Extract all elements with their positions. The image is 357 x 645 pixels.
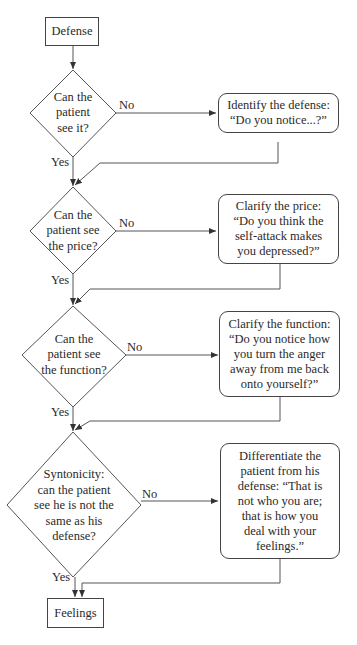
- decision-2-text: Can the patient see the price?: [30, 206, 116, 256]
- action-4-line: not who you are;: [238, 494, 323, 509]
- action-2-line: Clarify the price:: [234, 199, 324, 214]
- decision-4-line: see he is not the: [34, 498, 114, 514]
- action-4-line: Differentiate the: [238, 449, 323, 464]
- decision-2-no-label: No: [119, 216, 134, 230]
- action-box-clarify-function: Clarify the function: “Do you notice how…: [219, 311, 340, 397]
- decision-3-no-label: No: [127, 340, 142, 354]
- end-box-feelings: Feelings: [47, 598, 104, 628]
- action-3-line: you turn the anger: [228, 347, 330, 362]
- action-2-line: “Do you think the: [234, 214, 324, 229]
- action-3-line: onto yourself?”: [228, 377, 330, 392]
- action-3-line: Clarify the function:: [228, 317, 330, 332]
- decision-3-text: Can the patient see the function?: [22, 330, 126, 380]
- decision-4-line: defense?: [34, 529, 114, 545]
- action-1-line: Identify the defense:: [227, 98, 330, 113]
- decision-4-line: can the patient: [34, 483, 114, 499]
- start-box-defense: Defense: [45, 17, 99, 46]
- connector-action-1-return: [75, 142, 278, 185]
- action-2-line: you depressed?”: [234, 244, 324, 259]
- action-4-line: deal with your: [238, 524, 323, 539]
- decision-1-no-label: No: [119, 98, 134, 112]
- action-4-line: defense: “That is: [238, 479, 323, 494]
- decision-3-line: Can the: [41, 332, 107, 348]
- decision-4-yes-label: Yes: [52, 570, 70, 584]
- end-label: Feelings: [54, 606, 96, 621]
- decision-3-line: the function?: [41, 363, 107, 379]
- action-3-line: away from me back: [228, 362, 330, 377]
- action-1-line: “Do you notice...?”: [227, 113, 330, 128]
- action-4-line: that is how you: [238, 509, 323, 524]
- decision-4-line: Syntonicity:: [34, 467, 114, 483]
- decision-1-yes-label: Yes: [51, 155, 69, 169]
- decision-1-line: Can the: [54, 90, 93, 106]
- start-label: Defense: [52, 24, 93, 39]
- decision-2-yes-label: Yes: [51, 273, 69, 287]
- action-3-line: “Do you notice how: [228, 332, 330, 347]
- decision-2-line: the price?: [46, 239, 99, 255]
- decision-1-text: Can the patient see it?: [30, 88, 116, 138]
- connector-action-4-return: [82, 558, 280, 597]
- decision-1-line: patient: [54, 105, 93, 121]
- action-2-line: self-attack makes: [234, 229, 324, 244]
- decision-2-line: patient see: [46, 223, 99, 239]
- decision-3-yes-label: Yes: [51, 405, 69, 419]
- connector-action-2-return: [75, 263, 280, 304]
- decision-4-text: Syntonicity: can the patient see he is n…: [12, 467, 136, 545]
- decision-2-line: Can the: [46, 208, 99, 224]
- action-box-differentiate-patient: Differentiate the patient from his defen…: [220, 443, 340, 559]
- decision-3-line: patient see: [41, 347, 107, 363]
- decision-1-line: see it?: [54, 121, 93, 137]
- action-4-line: feelings.”: [238, 539, 323, 554]
- action-box-identify-defense: Identify the defense: “Do you notice...?…: [218, 93, 339, 133]
- action-box-clarify-price: Clarify the price: “Do you think the sel…: [218, 194, 339, 264]
- decision-4-no-label: No: [142, 487, 157, 501]
- decision-4-line: same as his: [34, 514, 114, 530]
- action-4-line: patient from his: [238, 464, 323, 479]
- connector-action-3-return: [75, 397, 280, 430]
